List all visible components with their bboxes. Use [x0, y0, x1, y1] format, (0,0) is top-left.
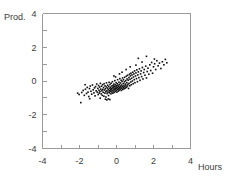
data-point — [133, 79, 135, 81]
data-point — [102, 89, 104, 91]
data-point — [133, 76, 135, 78]
tick-marks-group — [43, 14, 191, 149]
data-point — [107, 91, 109, 93]
data-point — [145, 65, 147, 67]
data-point — [125, 84, 127, 86]
data-point — [139, 80, 141, 82]
data-point — [86, 93, 88, 95]
data-point — [141, 76, 143, 78]
data-point — [102, 84, 104, 86]
data-point — [108, 86, 110, 88]
data-point — [103, 83, 105, 85]
x-tick-label: -4 — [38, 156, 46, 166]
data-point — [146, 77, 148, 79]
x-tick-label: 0 — [114, 156, 119, 166]
data-point — [116, 90, 118, 92]
data-point — [103, 95, 105, 97]
data-point — [113, 83, 115, 85]
data-point — [112, 81, 114, 83]
y-tick-label: -4 — [28, 144, 36, 154]
data-point — [160, 68, 162, 70]
data-point — [99, 86, 101, 88]
data-point — [94, 95, 96, 97]
data-point — [131, 84, 133, 86]
data-point — [139, 68, 141, 70]
data-point — [137, 74, 139, 76]
data-point — [98, 92, 100, 94]
data-point — [109, 99, 111, 101]
data-point — [163, 64, 165, 66]
data-point — [115, 76, 117, 78]
data-point — [100, 88, 102, 90]
y-tick-label: 4 — [31, 9, 36, 19]
data-point — [89, 85, 91, 87]
x-tick-label: 2 — [151, 156, 156, 166]
x-tick-label: -2 — [75, 156, 83, 166]
data-point — [125, 69, 127, 71]
data-point — [118, 81, 120, 83]
data-point — [155, 69, 157, 71]
data-point — [135, 72, 137, 74]
data-point — [87, 91, 89, 93]
data-point — [143, 72, 145, 74]
data-point — [128, 88, 130, 90]
data-point — [165, 59, 167, 61]
data-point — [131, 78, 133, 80]
scatter-points-group — [77, 56, 168, 104]
data-point — [96, 91, 98, 93]
data-point — [100, 93, 102, 95]
data-point — [96, 83, 98, 85]
data-point — [119, 78, 121, 80]
data-point — [132, 71, 134, 73]
data-point — [141, 61, 143, 63]
data-point — [105, 88, 107, 90]
data-point — [154, 63, 156, 65]
data-point — [138, 58, 140, 60]
data-point — [138, 77, 140, 79]
data-point — [92, 84, 94, 86]
data-point — [128, 77, 130, 79]
data-point — [154, 58, 156, 60]
data-point — [156, 60, 158, 62]
data-point — [136, 78, 138, 80]
data-point — [80, 102, 82, 104]
scatter-plot-figure: -4-2024-4-2024 Prod. Hours — [0, 0, 226, 180]
data-point — [122, 83, 124, 85]
data-point — [129, 85, 131, 87]
data-point — [159, 62, 161, 64]
data-point — [137, 81, 139, 83]
data-point — [105, 98, 107, 100]
data-point — [140, 73, 142, 75]
data-point — [101, 85, 103, 87]
data-point — [162, 61, 164, 63]
data-point — [127, 74, 129, 76]
data-point — [100, 83, 102, 85]
data-point — [84, 95, 86, 97]
data-point — [123, 79, 125, 81]
data-point — [135, 64, 137, 66]
data-point — [108, 98, 110, 100]
data-point — [129, 79, 131, 81]
data-point — [88, 96, 90, 98]
data-point — [104, 92, 106, 94]
data-point — [90, 90, 92, 92]
data-point — [131, 74, 133, 76]
data-point — [109, 92, 111, 94]
data-point — [109, 90, 111, 92]
data-point — [110, 82, 112, 84]
data-point — [95, 86, 97, 88]
plot-frame — [43, 14, 191, 149]
data-point — [127, 79, 129, 81]
chart-canvas: -4-2024-4-2024 Prod. Hours — [0, 0, 226, 180]
data-point — [84, 84, 86, 86]
data-point — [106, 99, 108, 101]
data-point — [151, 62, 153, 64]
data-point — [116, 85, 118, 87]
data-point — [99, 97, 101, 99]
data-point — [103, 87, 105, 89]
x-axis-title: Hours — [198, 162, 223, 172]
data-point — [143, 69, 145, 71]
data-point — [132, 83, 134, 85]
data-point — [152, 72, 154, 74]
data-point — [134, 70, 136, 72]
